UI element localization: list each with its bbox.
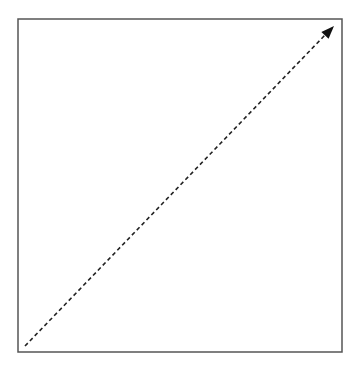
dashed-arrow-line [25, 34, 326, 346]
diagram-canvas [0, 0, 360, 368]
frame-box [18, 19, 342, 352]
